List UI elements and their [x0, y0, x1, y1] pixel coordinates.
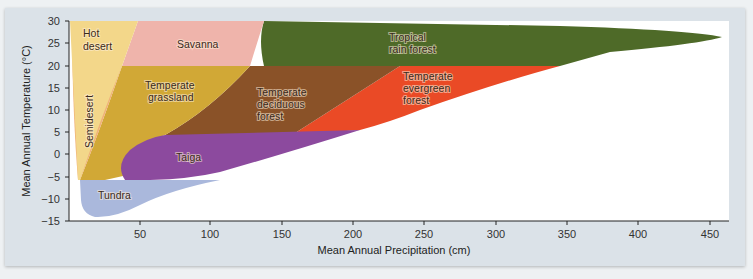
x-tick-label: 450 [701, 228, 719, 240]
label-temperate-grassland: Temperate [145, 79, 195, 91]
y-axis-title: Mean Annual Temperature (°C) [20, 45, 32, 197]
x-tick-label: 250 [415, 228, 433, 240]
y-tick-label: 25 [48, 37, 60, 49]
y-tick-label: −10 [41, 193, 60, 205]
label-taiga: Taiga [176, 151, 201, 163]
y-tick-label: 10 [48, 104, 60, 116]
label-temperate-grassland: grassland [148, 91, 194, 103]
y-tick-label: 30 [48, 15, 60, 27]
label-savanna: Savanna [177, 38, 219, 50]
label-temperate-deciduous-forest: forest [257, 110, 283, 122]
x-tick-label: 50 [134, 228, 146, 240]
label-temperate-evergreen-forest: evergreen [403, 82, 450, 94]
label-semidesert: Semidesert [83, 95, 95, 148]
x-tick-label: 400 [629, 228, 647, 240]
y-tick-label: 0 [54, 148, 60, 160]
label-hot-desert: Hot [83, 27, 99, 39]
y-tick-label: 15 [48, 82, 60, 94]
x-tick-label: 200 [344, 228, 362, 240]
x-tick-label: 100 [201, 228, 219, 240]
label-temperate-evergreen-forest: forest [403, 94, 429, 106]
y-tick-label: 20 [48, 60, 60, 72]
x-tick-label: 350 [558, 228, 576, 240]
y-tick-label: −5 [47, 171, 60, 183]
label-temperate-evergreen-forest: Temperate [403, 70, 453, 82]
x-axis-tick-labels: 50 100 150 200 250 300 350 400 450 [134, 228, 719, 240]
label-temperate-deciduous-forest: Temperate [257, 86, 307, 98]
x-axis-ticks [140, 221, 710, 225]
x-tick-label: 150 [273, 228, 291, 240]
biome-chart: 30 25 20 15 10 5 0 −5 −10 −15 50 100 150… [0, 0, 753, 279]
y-axis-ticks [65, 21, 69, 221]
x-tick-label: 300 [487, 228, 505, 240]
y-axis-tick-labels: 30 25 20 15 10 5 0 −5 −10 −15 [41, 15, 60, 227]
label-hot-desert: desert [83, 40, 112, 52]
label-tropical-rain-forest: rain forest [389, 43, 436, 55]
y-tick-label: 5 [54, 126, 60, 138]
y-tick-label: −15 [41, 215, 60, 227]
x-axis-title: Mean Annual Precipitation (cm) [318, 244, 471, 256]
label-tropical-rain-forest: Tropical [389, 31, 426, 43]
label-tundra: Tundra [98, 189, 131, 201]
label-temperate-deciduous-forest: deciduous [257, 98, 305, 110]
